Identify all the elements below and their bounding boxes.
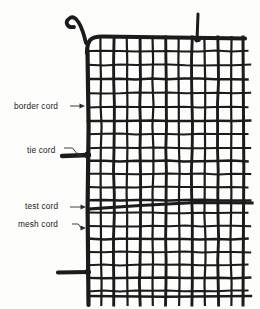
mesh-cord-vertical-right bbox=[243, 37, 244, 305]
mesh-cord-vertical bbox=[191, 37, 192, 305]
mesh-cord-horizontal bbox=[88, 161, 248, 162]
tie-cord-left-lower bbox=[58, 272, 89, 273]
top-tie-cord-knot bbox=[194, 37, 201, 42]
mesh-cord-horizontal bbox=[88, 121, 250, 122]
net-diagram-figure: border cordtie cordtest cordmesh cord bbox=[0, 0, 260, 309]
mesh-cord-horizontal bbox=[88, 148, 250, 149]
mesh-cord-vertical bbox=[127, 37, 128, 305]
mesh-cord-vertical bbox=[114, 37, 115, 305]
mesh-cord-vertical bbox=[178, 37, 179, 305]
tie-cord-left-lower-knot bbox=[85, 269, 91, 275]
mesh-cord-horizontal bbox=[88, 51, 248, 52]
mesh-cord-horizontal bbox=[88, 187, 248, 188]
net-mesh-group bbox=[58, 14, 252, 305]
callout-arrows-group bbox=[64, 104, 86, 231]
mesh-cord-horizontal bbox=[88, 134, 248, 135]
top-left-hook-cord bbox=[67, 17, 86, 43]
mesh-cord-vertical bbox=[100, 37, 101, 305]
test-cord bbox=[88, 203, 252, 210]
mesh-cord-horizontal bbox=[88, 265, 248, 266]
mesh-cord-vertical bbox=[152, 37, 153, 305]
callout-label-border-cord: border cord bbox=[14, 101, 58, 111]
mesh-cord-vertical bbox=[204, 37, 205, 305]
tie-cord-left-upper-knot bbox=[84, 152, 90, 159]
mesh-cord-vertical bbox=[231, 37, 232, 305]
callout-label-test-cord: test cord bbox=[25, 201, 58, 211]
mesh-cord-vertical bbox=[139, 37, 140, 305]
mesh-cord-horizontal bbox=[88, 291, 248, 292]
mesh-cord-vertical bbox=[166, 37, 167, 305]
callout-label-mesh-cord: mesh cord bbox=[18, 219, 58, 229]
mesh-cord-horizontal bbox=[88, 213, 248, 214]
mesh-cord-vertical bbox=[218, 37, 219, 305]
callout-arrowhead-border-cord bbox=[80, 104, 86, 109]
callout-label-tie-cord: tie cord bbox=[27, 145, 55, 155]
mesh-cord-horizontal bbox=[88, 93, 250, 94]
border-cord-left bbox=[88, 51, 89, 305]
mesh-cord-horizontal bbox=[88, 239, 248, 240]
mesh-cord-horizontal bbox=[88, 200, 250, 201]
mesh-cord-bottom bbox=[88, 296, 251, 297]
mesh-cord-horizontal bbox=[88, 79, 248, 80]
mesh-cord-horizontal bbox=[88, 226, 250, 227]
callout-arrowhead-mesh-cord bbox=[81, 226, 87, 231]
callout-arrowhead-test-cord bbox=[81, 205, 87, 210]
